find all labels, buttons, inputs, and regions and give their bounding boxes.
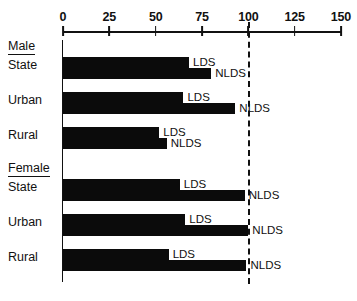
bar-male-rural-lds [63, 127, 159, 138]
axis-tick-label: 25 [103, 10, 117, 24]
row-label-female-state: State [8, 180, 37, 194]
axis-tick-label: 0 [60, 10, 67, 24]
axis-tick [108, 26, 110, 36]
axis-tick [201, 26, 203, 36]
bar-male-state-nlds [63, 68, 211, 79]
axis-tick-label: 125 [285, 10, 305, 24]
bar-female-urban-nlds [63, 225, 248, 236]
plot-area: MaleStateLDSNLDSUrbanLDSNLDSRuralLDSNLDS… [0, 40, 357, 290]
bar-value-label-nlds: NLDS [215, 68, 246, 79]
bar-female-state-nlds [63, 190, 245, 201]
bar-value-label-nlds: NLDS [250, 260, 281, 271]
axis-tick [155, 26, 157, 36]
caption-strip [0, 292, 357, 301]
row-label-male-rural: Rural [8, 128, 38, 142]
bar-value-label-lds: LDS [173, 249, 195, 260]
bar-male-urban-nlds [63, 103, 235, 114]
bar-male-state-lds [63, 57, 189, 68]
bar-value-label-nlds: NLDS [171, 138, 202, 149]
bar-value-label-lds: LDS [189, 214, 211, 225]
row-label-female-rural: Rural [8, 250, 38, 264]
section-label-female: Female [8, 161, 50, 177]
bar-value-label-lds: LDS [187, 92, 209, 103]
bar-value-label-lds: LDS [193, 57, 215, 68]
row-label-female-urban: Urban [8, 215, 42, 229]
bar-female-rural-lds [63, 249, 169, 260]
bar-value-label-nlds: NLDS [252, 225, 283, 236]
bar-female-rural-nlds [63, 260, 246, 271]
axis-tick [340, 26, 342, 36]
bar-value-label-nlds: NLDS [249, 190, 280, 201]
axis-tick-label: 50 [149, 10, 163, 24]
bar-female-state-lds [63, 179, 180, 190]
bar-female-urban-lds [63, 214, 185, 225]
bar-chart: 0255075100125150 MaleStateLDSNLDSUrbanLD… [0, 0, 357, 301]
x-axis: 0255075100125150 [0, 0, 357, 40]
row-label-male-urban: Urban [8, 93, 42, 107]
axis-tick-label: 150 [331, 10, 351, 24]
reference-line-100 [248, 22, 250, 284]
axis-tick [294, 26, 296, 36]
bar-value-label-lds: LDS [184, 179, 206, 190]
bar-value-label-nlds: NLDS [239, 103, 270, 114]
section-label-male: Male [8, 39, 35, 55]
row-label-male-state: State [8, 58, 37, 72]
axis-tick-label: 75 [195, 10, 209, 24]
bar-male-urban-lds [63, 92, 183, 103]
bar-male-rural-nlds [63, 138, 167, 149]
axis-tick [62, 26, 64, 36]
